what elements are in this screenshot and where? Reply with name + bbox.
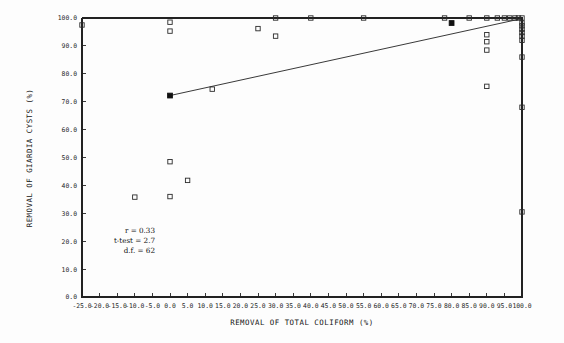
y-tick-label: 20.0 <box>62 238 78 246</box>
x-tick-label: 50.0 <box>338 302 354 310</box>
x-tick-label: 90.0 <box>479 302 495 310</box>
data-point-open <box>485 84 489 88</box>
x-tick-label: 65.0 <box>391 302 407 310</box>
x-tick-label: 35.0 <box>286 302 302 310</box>
x-axis-title: REMOVAL OF TOTAL COLIFORM (%) <box>230 318 374 327</box>
x-tick-label: 60.0 <box>374 302 390 310</box>
data-point-filled <box>449 21 454 26</box>
data-point-open <box>210 87 214 91</box>
x-tick-label: 10.0 <box>198 302 214 310</box>
x-tick-label: 75.0 <box>426 302 442 310</box>
y-tick-label: 0.0 <box>65 293 77 301</box>
data-point-open <box>485 48 489 52</box>
stat-correlation: r = 0.33 <box>125 226 155 235</box>
y-tick-label: 40.0 <box>62 182 78 190</box>
y-tick-label: 30.0 <box>62 210 78 218</box>
x-tick-label: 70.0 <box>409 302 425 310</box>
y-tick-label: 100.0 <box>58 14 77 22</box>
x-tick-label: 25.0 <box>250 302 266 310</box>
chart-canvas: -25.0-20.0-15.0-10.0-5.00.05.010.015.020… <box>0 0 564 343</box>
x-tick-label: 0.0 <box>164 302 176 310</box>
x-tick-label: 95.0 <box>497 302 513 310</box>
data-point-open <box>168 194 172 198</box>
data-point-open <box>273 34 277 38</box>
x-tick-label: 55.0 <box>356 302 372 310</box>
data-point-open <box>133 195 137 199</box>
stat-degrees-freedom: d.f. = 62 <box>124 246 155 255</box>
data-point-open <box>168 159 172 163</box>
data-point-open <box>168 20 172 24</box>
x-tick-label: 30.0 <box>268 302 284 310</box>
axes-group <box>82 18 522 297</box>
data-point-open <box>185 178 189 182</box>
x-tick-label: 20.0 <box>233 302 249 310</box>
x-tick-label: -10.0 <box>125 302 144 310</box>
plot-frame <box>82 18 522 297</box>
least-squares-fit-line <box>170 19 522 96</box>
y-tick-label: 90.0 <box>62 42 78 50</box>
x-tick-label: 85.0 <box>462 302 478 310</box>
x-tick-label: 45.0 <box>321 302 337 310</box>
x-tick-label: 100.0 <box>512 302 531 310</box>
x-tick-label: -15.0 <box>108 302 127 310</box>
y-tick-label: 80.0 <box>62 70 78 78</box>
x-axis-ticks: -25.0-20.0-15.0-10.0-5.00.05.010.015.020… <box>72 293 531 310</box>
x-tick-label: 80.0 <box>444 302 460 310</box>
y-tick-label: 50.0 <box>62 154 78 162</box>
x-tick-label: 40.0 <box>303 302 319 310</box>
y-tick-label: 10.0 <box>62 266 78 274</box>
regression-line <box>170 19 522 96</box>
data-point-filled <box>168 93 173 98</box>
y-axis-title: REMOVAL OF GIARDIA CYSTS (%) <box>25 89 34 228</box>
x-tick-label: 15.0 <box>215 302 231 310</box>
data-point-open <box>256 26 260 30</box>
scatter-plot-figure: -25.0-20.0-15.0-10.0-5.00.05.010.015.020… <box>0 0 564 343</box>
y-tick-label: 60.0 <box>62 126 78 134</box>
stat-ttest: t-test = 2.7 <box>114 236 155 245</box>
x-tick-label: -5.0 <box>145 302 161 310</box>
y-tick-label: 70.0 <box>62 98 78 106</box>
x-tick-label: -20.0 <box>90 302 109 310</box>
data-point-open <box>168 29 172 33</box>
data-points <box>80 16 524 214</box>
data-point-open <box>485 33 489 37</box>
x-tick-label: -25.0 <box>72 302 91 310</box>
data-point-open <box>485 40 489 44</box>
x-tick-label: 5.0 <box>182 302 194 310</box>
